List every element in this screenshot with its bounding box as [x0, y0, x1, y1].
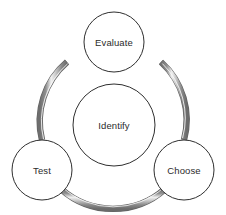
node-identify[interactable]: Identify	[73, 84, 155, 166]
ring-arc-choose-test	[61, 187, 165, 208]
identify-label: Identify	[98, 120, 130, 131]
evaluate-label: Evaluate	[95, 37, 133, 48]
ring-arc-evaluate-choose	[161, 62, 187, 140]
cycle-diagram-container: Identify Evaluate Test Choose	[0, 0, 226, 215]
cycle-diagram: Identify Evaluate Test Choose	[0, 0, 226, 215]
node-evaluate[interactable]: Evaluate	[84, 12, 144, 72]
test-label: Test	[33, 165, 51, 176]
choose-label: Choose	[167, 165, 200, 176]
ring-arc-test-evaluate	[40, 62, 68, 140]
node-choose[interactable]: Choose	[154, 140, 214, 200]
node-test[interactable]: Test	[12, 140, 72, 200]
